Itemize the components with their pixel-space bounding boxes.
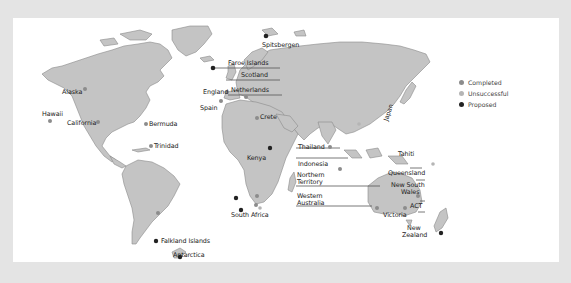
label-england: England	[203, 89, 228, 96]
label-netherlands: Netherlands	[231, 87, 269, 94]
label-tahiti: Tahiti	[398, 151, 414, 158]
label-new-zealand-2: Zealand	[402, 232, 427, 239]
completed-dot-icon	[459, 80, 464, 85]
label-thailand: Thailand	[298, 144, 325, 151]
greenland	[172, 26, 212, 56]
label-scotland: Scotland	[241, 72, 268, 79]
label-northern-territory-2: Territory	[297, 179, 323, 186]
unsuccessful-dot-icon	[459, 91, 464, 96]
label-spain: Spain	[200, 105, 217, 112]
legend-label: Completed	[468, 79, 502, 86]
label-nsw-2: Wales	[401, 189, 419, 196]
legend-completed: Completed	[459, 77, 508, 88]
label-victoria: Victoria	[383, 212, 406, 219]
label-faroe: Faroe Islands	[228, 60, 268, 67]
new-zealand	[434, 208, 448, 232]
proposed-dot-icon	[459, 102, 464, 107]
legend: Completed Unsuccessful Proposed	[459, 77, 508, 110]
legend-unsuccessful: Unsuccessful	[459, 88, 508, 99]
label-antarctica: Antarctica	[173, 252, 205, 259]
marker-spitsbergen	[264, 34, 269, 39]
label-queensland: Queensland	[388, 170, 425, 177]
label-california: California	[67, 120, 96, 127]
label-falkland: Falkland Islands	[161, 238, 210, 245]
label-bermuda: Bermuda	[149, 121, 177, 128]
label-indonesia: Indonesia	[298, 161, 328, 168]
legend-label: Proposed	[468, 101, 497, 108]
label-trinidad: Trinidad	[154, 143, 178, 150]
label-hawaii: Hawaii	[42, 111, 63, 118]
label-spitsbergen: Spitsbergen	[262, 42, 299, 49]
legend-proposed: Proposed	[459, 99, 508, 110]
label-kenya: Kenya	[247, 155, 266, 162]
label-alaska: Alaska	[62, 89, 82, 96]
label-western-australia-2: Australia	[297, 200, 324, 207]
label-crete: Crete	[260, 114, 277, 121]
label-south-africa: South Africa	[231, 212, 269, 219]
label-act: ACT	[410, 203, 422, 210]
north-america	[42, 42, 172, 162]
legend-label: Unsuccessful	[468, 90, 508, 97]
south-america	[122, 160, 180, 244]
